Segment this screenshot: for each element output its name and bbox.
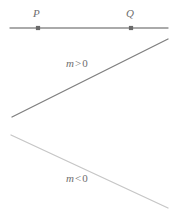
diagram-canvas xyxy=(0,0,178,221)
negative-slope-label: m<0 xyxy=(66,173,88,184)
positive-slope-value: 0 xyxy=(82,57,88,69)
positive-slope-operator: > xyxy=(74,57,82,69)
point-marker-q xyxy=(129,26,133,30)
positive-slope-variable: m xyxy=(66,57,74,69)
negative-slope-operator: < xyxy=(74,172,82,184)
negative-slope-variable: m xyxy=(66,172,74,184)
positive-slope-line xyxy=(12,39,168,117)
negative-slope-value: 0 xyxy=(82,172,88,184)
positive-slope-label: m>0 xyxy=(66,58,88,69)
point-label-q: Q xyxy=(126,8,134,19)
slope-diagram-figure: P Q m>0 m<0 xyxy=(0,0,178,221)
point-marker-p xyxy=(36,26,40,30)
point-label-p: P xyxy=(33,8,40,19)
negative-slope-line xyxy=(11,135,168,208)
